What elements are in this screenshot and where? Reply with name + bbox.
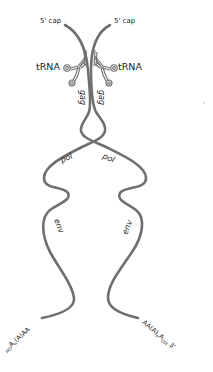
left-trna-label: tRNA (36, 61, 60, 72)
left-polya-tail-label: HOAn(A)AA (2, 325, 33, 354)
right-trna-label: tRNA (118, 61, 142, 72)
genome-strands: 5' cap 5' cap tRNA tRNA gag gag pol pol … (0, 0, 213, 372)
right-gag-label: gag (97, 90, 106, 105)
left-env-label: env (52, 217, 66, 234)
right-pol-label: pol (100, 151, 116, 165)
right-trna-icon (94, 50, 117, 86)
right-5-cap-label: 5' cap (114, 17, 136, 25)
speck-dot (203, 102, 205, 104)
left-trna-icon (64, 50, 87, 86)
left-5-cap-label: 5' cap (40, 17, 62, 25)
left-gag-label: gag (78, 90, 87, 105)
right-env-label: env (121, 218, 135, 235)
svg-text:AA(A)nAOH 3': AA(A)nAOH 3' (140, 318, 177, 351)
right-polya-tail-label: AA(A)nAOH 3' (140, 318, 177, 351)
svg-text:HOAn(A)AA: HOAn(A)AA (2, 325, 33, 354)
